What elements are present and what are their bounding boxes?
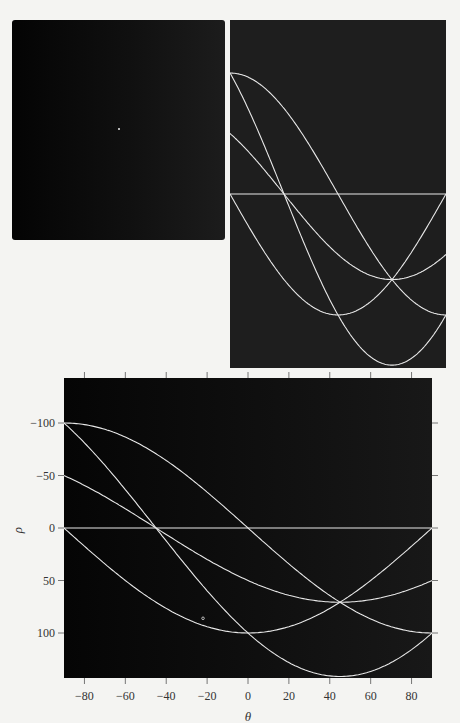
hough-main-svg: −80−60−40−20020406080−100−50050100 θ ρ <box>0 360 460 723</box>
x-tick-label: 0 <box>245 689 251 703</box>
hough-transform-plot: −80−60−40−20020406080−100−50050100 θ ρ <box>0 360 460 723</box>
x-tick-label: 40 <box>324 689 336 703</box>
x-axis-label: θ <box>245 709 252 723</box>
y-tick-label: 50 <box>43 574 55 588</box>
x-tick-label: −80 <box>75 689 94 703</box>
y-tick-label: 100 <box>37 626 55 640</box>
y-tick-label: −100 <box>30 416 55 430</box>
image-point <box>118 128 120 130</box>
x-tick-label: −40 <box>157 689 176 703</box>
x-tick-label: 60 <box>365 689 377 703</box>
input-image-panel <box>12 20 225 240</box>
hough-curve <box>230 73 446 365</box>
x-tick-label: −20 <box>198 689 217 703</box>
y-axis-label: ρ <box>10 527 25 534</box>
x-tick-label: 80 <box>406 689 418 703</box>
x-tick-label: −60 <box>116 689 135 703</box>
x-tick-label: 20 <box>283 689 295 703</box>
y-tick-label: −50 <box>36 469 55 483</box>
hough-curve <box>230 134 446 280</box>
hough-transform-small-panel <box>230 20 446 368</box>
y-tick-label: 0 <box>49 521 55 535</box>
hough-small-curves <box>230 20 446 368</box>
